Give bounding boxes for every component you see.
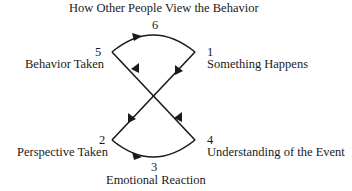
arrow-right-lower-icon (174, 112, 182, 122)
arrow-left-upper-icon (131, 63, 139, 73)
bottom-arc (112, 140, 195, 157)
figure-eight-cycle (0, 0, 352, 191)
top-arc (112, 35, 195, 52)
arrow-left-lower-icon (128, 113, 136, 123)
